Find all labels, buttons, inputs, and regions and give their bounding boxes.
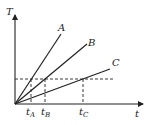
temperature-time-diagram: T t A B C tA tB tC <box>0 0 149 125</box>
tick-label-ta: tA <box>26 106 35 119</box>
y-axis-label: T <box>6 6 14 17</box>
line-b-label: B <box>87 37 95 48</box>
line-c <box>15 69 110 104</box>
line-a <box>15 34 61 104</box>
line-a-label: A <box>57 22 65 33</box>
tick-label-tb: tB <box>41 106 50 119</box>
x-axis-label: t <box>135 108 140 119</box>
tick-label-tc: tC <box>79 106 89 119</box>
line-b <box>15 44 87 104</box>
line-c-label: C <box>112 57 120 68</box>
